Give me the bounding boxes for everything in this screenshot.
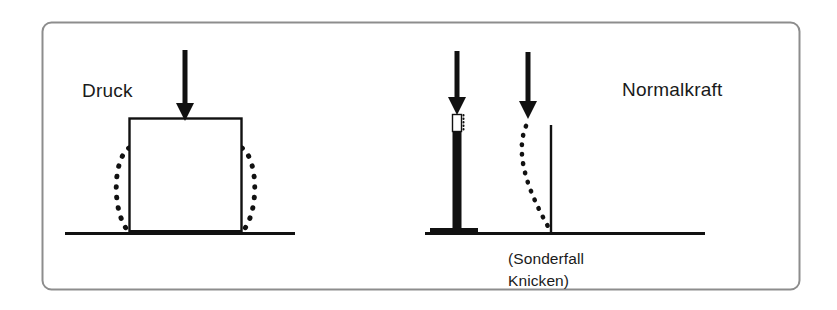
figure-background xyxy=(0,0,837,310)
figure-canvas: Druck xyxy=(0,0,837,310)
caption-knicken: Knicken) xyxy=(508,272,569,289)
compression-block xyxy=(130,119,242,233)
figure-root: Druck xyxy=(0,0,837,310)
caption-sonderfall: (Sonderfall xyxy=(508,250,584,267)
label-druck: Druck xyxy=(82,80,133,101)
label-normalkraft: Normalkraft xyxy=(622,79,723,100)
column-solid-segment xyxy=(453,131,462,232)
column-unloaded-segment xyxy=(453,115,462,132)
